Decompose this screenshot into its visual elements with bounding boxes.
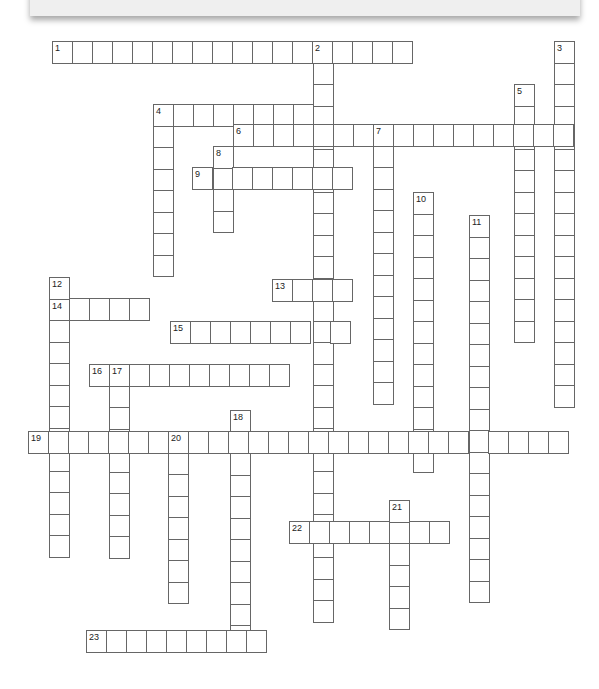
crossword-cell[interactable] [469,559,490,582]
crossword-cell[interactable] [548,431,569,454]
crossword-cell[interactable] [388,431,409,454]
crossword-cell[interactable] [469,473,490,496]
crossword-cell[interactable] [469,323,490,346]
crossword-cell[interactable] [413,235,434,258]
crossword-cell[interactable] [168,453,189,476]
crossword-cell[interactable] [88,431,109,454]
crossword-cell[interactable] [168,517,189,540]
crossword-cell[interactable] [153,126,174,149]
crossword-cell[interactable] [92,41,113,64]
crossword-cell[interactable] [313,385,334,408]
crossword-cell[interactable] [469,581,490,604]
crossword-cell[interactable] [129,364,150,387]
crossword-cell[interactable] [272,41,293,64]
crossword-cell[interactable] [248,431,269,454]
crossword-cell[interactable] [332,167,353,190]
crossword-cell[interactable] [106,630,127,653]
crossword-cell[interactable] [48,431,69,454]
crossword-cell[interactable] [413,343,434,366]
crossword-cell[interactable]: 2 [312,41,333,64]
crossword-cell[interactable] [109,472,130,495]
crossword-cell[interactable] [469,387,490,410]
crossword-cell[interactable] [514,235,535,258]
crossword-cell[interactable] [49,363,70,386]
crossword-cell[interactable] [389,522,410,545]
crossword-cell[interactable] [192,41,213,64]
crossword-cell[interactable] [389,608,410,631]
crossword-cell[interactable] [226,630,247,653]
crossword-cell[interactable] [213,189,234,212]
crossword-cell[interactable] [313,364,334,387]
crossword-cell[interactable] [230,539,251,562]
crossword-cell[interactable] [373,339,394,362]
crossword-cell[interactable] [554,170,575,193]
crossword-cell[interactable] [149,364,170,387]
crossword-cell[interactable] [230,518,251,541]
crossword-cell[interactable] [413,364,434,387]
crossword-cell[interactable] [413,124,434,147]
crossword-cell[interactable] [230,475,251,498]
crossword-cell[interactable] [309,521,330,544]
crossword-cell[interactable] [288,431,309,454]
crossword-cell[interactable] [168,474,189,497]
crossword-cell[interactable] [49,320,70,343]
crossword-cell[interactable] [253,124,274,147]
crossword-cell[interactable] [148,431,169,454]
crossword-cell[interactable] [313,600,334,623]
crossword-cell[interactable] [232,41,253,64]
crossword-cell[interactable] [373,189,394,212]
crossword-cell[interactable] [190,321,211,344]
crossword-cell[interactable] [353,124,374,147]
crossword-cell[interactable]: 18 [230,410,251,433]
crossword-cell[interactable]: 15 [170,321,191,344]
crossword-cell[interactable] [193,104,214,127]
crossword-cell[interactable]: 3 [554,41,575,64]
crossword-cell[interactable] [173,104,194,127]
crossword-cell[interactable] [373,361,394,384]
crossword-cell[interactable]: 11 [469,215,490,238]
crossword-cell[interactable] [153,190,174,213]
crossword-cell[interactable]: 10 [413,192,434,215]
crossword-cell[interactable] [348,431,369,454]
crossword-cell[interactable]: 23 [86,630,107,653]
crossword-cell[interactable] [513,124,534,147]
crossword-cell[interactable] [273,124,294,147]
crossword-cell[interactable] [153,147,174,170]
crossword-cell[interactable] [373,382,394,405]
crossword-cell[interactable] [469,366,490,389]
crossword-cell[interactable] [333,124,354,147]
crossword-cell[interactable]: 5 [514,84,535,107]
crossword-cell[interactable] [373,167,394,190]
crossword-cell[interactable] [268,431,289,454]
crossword-cell[interactable] [228,431,249,454]
crossword-cell[interactable] [230,561,251,584]
crossword-cell[interactable] [112,41,133,64]
crossword-cell[interactable] [469,452,490,475]
crossword-cell[interactable] [313,192,334,215]
crossword-cell[interactable] [313,256,334,279]
crossword-cell[interactable] [188,431,209,454]
crossword-cell[interactable] [554,63,575,86]
crossword-cell[interactable] [292,279,313,302]
crossword-cell[interactable] [109,515,130,538]
crossword-cell[interactable] [389,586,410,609]
crossword-cell[interactable]: 7 [373,124,394,147]
crossword-cell[interactable] [208,431,229,454]
crossword-cell[interactable] [408,431,429,454]
crossword-cell[interactable] [392,41,413,64]
crossword-cell[interactable] [206,630,227,653]
crossword-cell[interactable] [409,521,430,544]
crossword-cell[interactable] [448,431,469,454]
crossword-cell[interactable] [109,407,130,430]
crossword-cell[interactable] [373,210,394,233]
crossword-cell[interactable] [312,167,333,190]
crossword-cell[interactable] [270,321,291,344]
crossword-cell[interactable] [469,344,490,367]
crossword-cell[interactable] [89,298,110,321]
crossword-cell[interactable] [493,124,514,147]
crossword-cell[interactable] [292,167,313,190]
crossword-cell[interactable] [308,431,329,454]
crossword-cell[interactable] [252,41,273,64]
crossword-cell[interactable] [230,496,251,519]
crossword-cell[interactable] [389,565,410,588]
